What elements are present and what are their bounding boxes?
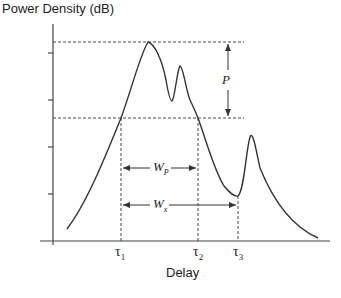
power-delay-curve [67, 42, 318, 238]
p-label: P [220, 72, 232, 88]
tau1-label: τ1 [115, 244, 125, 262]
wx-label: Wx [151, 196, 169, 214]
x-axis-title: Delay [166, 265, 199, 280]
y-axis-title: Power Density (dB) [2, 1, 114, 16]
tau2-label: τ2 [193, 244, 203, 262]
tau3-label: τ3 [233, 244, 243, 262]
y-axis-ticks [48, 53, 53, 194]
power-delay-profile-diagram [0, 0, 341, 298]
wp-label: WP [151, 159, 171, 177]
reference-lines [53, 42, 244, 241]
